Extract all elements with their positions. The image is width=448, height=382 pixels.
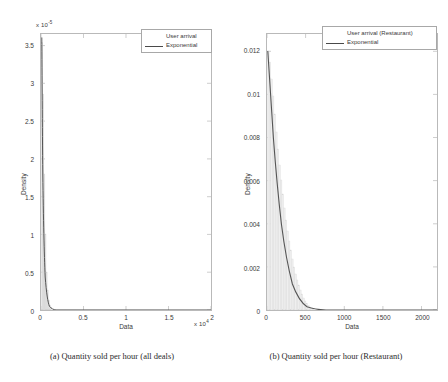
legend-item-exponential-a: Exponential	[145, 41, 208, 50]
caption-b: (b) Quantity sold per hour (Restaurant)	[224, 351, 448, 361]
tick-marks-a	[41, 34, 211, 310]
xtick-b-500: 500	[300, 314, 311, 321]
ytick-a-2: 2	[0, 155, 34, 162]
ytick-b-0.004: 0.004	[224, 221, 260, 228]
figure-container: x 10-5 x 104 0 0.5 1 1.5 2 2.5 3 3.5 0 0…	[0, 0, 448, 382]
ytick-a-2.5: 2.5	[0, 117, 34, 124]
legend-b: User arrival (Restaurant) Exponential	[322, 26, 437, 50]
ytick-a-1.5: 1.5	[0, 193, 34, 200]
ytick-a-1: 1	[0, 231, 34, 238]
ytick-b-0: 0	[224, 308, 260, 315]
line-swatch-icon-b	[326, 39, 344, 47]
plot-area-b	[266, 33, 438, 311]
legend-item-user-arrival-b: User arrival (Restaurant)	[326, 29, 433, 38]
ytick-a-0.5: 0.5	[0, 269, 34, 276]
xtick-a-1: 1	[124, 314, 128, 321]
ytick-b-0.006: 0.006	[224, 177, 260, 184]
plot-svg-a	[41, 34, 211, 310]
panel-b: 0 0.002 0.004 0.006 0.008 0.01 0.012 0 5…	[224, 0, 448, 382]
x-axis-label-a: Data	[40, 323, 212, 330]
legend-label-exponential-b: Exponential	[347, 38, 378, 47]
x-axis-label-b: Data	[266, 323, 438, 330]
legend-item-exponential-b: Exponential	[326, 38, 433, 47]
ytick-a-0: 0	[0, 308, 34, 315]
histogram-bars-b	[268, 51, 314, 310]
xtick-b-0: 0	[264, 314, 268, 321]
plot-svg-b	[267, 34, 437, 310]
ytick-b-0.012: 0.012	[224, 47, 260, 54]
y-axis-label-b: Density	[244, 173, 251, 195]
caption-a: (a) Quantity sold per hour (all deals)	[0, 351, 224, 361]
xtick-a-0: 0	[38, 314, 42, 321]
ytick-b-0.002: 0.002	[224, 264, 260, 271]
xtick-a-2: 2	[210, 314, 214, 321]
y-axis-exponent-label-a: x 10-5	[36, 20, 53, 28]
panel-a: x 10-5 x 104 0 0.5 1 1.5 2 2.5 3 3.5 0 0…	[0, 0, 224, 382]
line-swatch-icon-a	[145, 42, 163, 50]
legend-label-user-arrival-a: User arrival	[166, 32, 197, 41]
ytick-b-0.01: 0.01	[224, 90, 260, 97]
ytick-a-3: 3	[0, 79, 34, 86]
xtick-a-0.5: 0.5	[78, 314, 87, 321]
xtick-a-1.5: 1.5	[164, 314, 173, 321]
legend-label-user-arrival-b: User arrival (Restaurant)	[347, 29, 413, 38]
ytick-b-0.008: 0.008	[224, 134, 260, 141]
legend-a: User arrival Exponential	[141, 29, 212, 53]
legend-item-user-arrival-a: User arrival	[145, 32, 208, 41]
ytick-a-3.5: 3.5	[0, 41, 34, 48]
legend-label-exponential-a: Exponential	[166, 41, 197, 50]
histogram-swatch-icon-b	[326, 30, 344, 38]
exponential-curve-a	[42, 38, 211, 311]
xtick-b-1500: 1500	[376, 314, 390, 321]
xtick-b-2000: 2000	[415, 314, 429, 321]
xtick-b-1000: 1000	[337, 314, 351, 321]
histogram-swatch-icon-a	[145, 33, 163, 41]
plot-area-a	[40, 33, 212, 311]
y-axis-label-a: Density	[20, 173, 27, 195]
